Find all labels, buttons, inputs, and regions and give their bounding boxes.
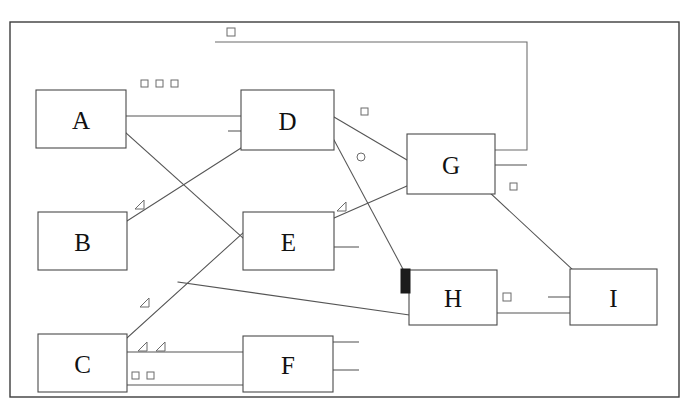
marker-square-sq-a-2 — [156, 80, 163, 87]
node-d[interactable]: D — [241, 90, 334, 150]
edge-b-d-diagonal — [127, 148, 241, 221]
marker-triangle-tri-c-1 — [138, 342, 147, 351]
node-c[interactable]: C — [38, 334, 127, 392]
marker-square-sq-h-i — [503, 293, 511, 301]
node-e[interactable]: E — [243, 212, 334, 270]
node-label-i: I — [609, 285, 617, 312]
marker-square-sq-top — [227, 28, 235, 36]
marker-triangle-tri-c-mid — [140, 298, 149, 307]
marker-square-sq-a-3 — [171, 80, 178, 87]
node-label-f: F — [281, 352, 295, 379]
edge-d-g-diagonal — [334, 117, 407, 160]
node-label-h: H — [444, 285, 462, 312]
node-label-e: E — [281, 229, 296, 256]
marker-square-sq-h-left — [401, 269, 410, 293]
marker-triangle-tri-e-above — [337, 202, 346, 211]
marker-square-sq-d-right — [361, 108, 368, 115]
node-g[interactable]: G — [407, 134, 495, 194]
node-b[interactable]: B — [38, 212, 127, 270]
node-f[interactable]: F — [243, 336, 333, 392]
edge-e-g-diagonal — [334, 186, 407, 218]
node-label-d: D — [278, 108, 296, 135]
marker-square-sq-c-2 — [147, 372, 154, 379]
edge-a-e-diagonal — [126, 133, 243, 238]
edge-g-i-diagonal — [489, 192, 573, 270]
diagram-svg: ABCDEFGHI — [0, 0, 689, 408]
node-label-g: G — [442, 152, 460, 179]
diagram-canvas: ABCDEFGHI — [0, 0, 689, 408]
node-a[interactable]: A — [36, 90, 126, 148]
node-h[interactable]: H — [409, 270, 497, 325]
edge-c-h-long — [178, 282, 409, 315]
marker-triangle-tri-c-2 — [156, 342, 165, 351]
marker-square-sq-g-below — [510, 183, 517, 190]
edge-layer — [126, 116, 573, 385]
node-label-b: B — [74, 229, 91, 256]
marker-triangle-tri-b-above — [135, 200, 144, 209]
marker-circle-circle-d-e — [357, 153, 365, 161]
marker-square-sq-c-1 — [132, 372, 139, 379]
marker-layer — [132, 28, 517, 379]
node-i[interactable]: I — [570, 269, 657, 325]
node-label-c: C — [74, 351, 91, 378]
edge-c-e-diagonal — [127, 232, 244, 338]
node-label-a: A — [72, 107, 90, 134]
marker-square-sq-a-1 — [141, 80, 148, 87]
